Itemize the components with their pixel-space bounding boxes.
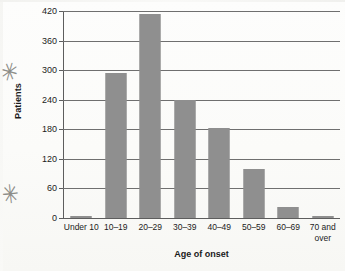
y-axis-title: Patients: [13, 66, 23, 136]
bar-group: 10–19: [99, 11, 134, 218]
bar-group: 30–39: [168, 11, 203, 218]
bar[interactable]: [209, 128, 230, 218]
y-axis-tick: [59, 129, 63, 130]
y-axis-tick: [59, 159, 63, 160]
y-axis-tick: [59, 41, 63, 42]
y-axis-tick-label: 300: [42, 65, 57, 75]
x-axis-title: Age of onset: [63, 249, 340, 259]
y-axis-tick: [59, 188, 63, 189]
y-axis-tick: [59, 70, 63, 71]
bar-group: 50–59: [237, 11, 272, 218]
gridline: [63, 218, 340, 219]
bar[interactable]: [140, 14, 161, 218]
bar-group: 70 and over: [306, 11, 341, 218]
y-axis-tick: [59, 100, 63, 101]
y-axis-tick-label: 360: [42, 36, 57, 46]
bar-group: 20–29: [133, 11, 168, 218]
scan-edge-artifact-top: [0, 0, 345, 2]
plot-area: 060120180240300360420 Under 1010–1920–29…: [63, 11, 340, 218]
bar[interactable]: [105, 73, 126, 218]
y-axis-tick-label: 180: [42, 124, 57, 134]
bar[interactable]: [71, 216, 92, 218]
y-axis-tick-label: 60: [47, 183, 57, 193]
y-axis-tick-label: 120: [42, 154, 57, 164]
bar[interactable]: [278, 207, 299, 218]
y-axis-tick-label: 240: [42, 95, 57, 105]
y-axis-tick: [59, 218, 63, 219]
bar[interactable]: [174, 100, 195, 218]
y-axis-tick: [59, 11, 63, 12]
y-axis-tick-label: 0: [52, 213, 57, 223]
bar[interactable]: [312, 216, 333, 218]
bars-group: Under 1010–1920–2930–3940–4950–5960–6970…: [64, 11, 340, 218]
x-axis-tick-label: 70 and over: [301, 222, 345, 243]
bar[interactable]: [243, 169, 264, 218]
y-axis-tick-label: 420: [42, 6, 57, 16]
margin-doodle-lower-icon: ✳: [1, 180, 21, 208]
scan-edge-artifact-left: [0, 0, 3, 271]
bar-chart-figure: ✳ ✳ Patients 060120180240300360420 Under…: [0, 0, 345, 271]
bar-group: 40–49: [202, 11, 237, 218]
bar-group: Under 10: [64, 11, 99, 218]
bar-group: 60–69: [271, 11, 306, 218]
